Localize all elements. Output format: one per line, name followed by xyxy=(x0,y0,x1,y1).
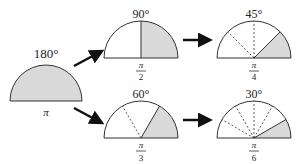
radian-num: π xyxy=(139,60,144,70)
radian-den: 2 xyxy=(139,72,144,82)
semicircle-45: 45° π 4 xyxy=(217,7,291,82)
radian-label-pi: π xyxy=(43,106,49,118)
radian-den: 4 xyxy=(252,72,257,82)
angle-division-diagram: 180° π 90° π 2 45° π 4 60° π 3 xyxy=(0,0,298,164)
arrow-to-90 xyxy=(74,52,100,66)
semicircle-180: 180° π xyxy=(10,46,82,118)
semicircle-60: 60° π 3 xyxy=(104,87,178,163)
angle-label-30: 30° xyxy=(246,87,263,101)
radian-num: π xyxy=(139,140,144,150)
radian-den: 3 xyxy=(139,153,144,163)
semicircle-30: 30° π 6 xyxy=(217,87,291,163)
angle-label-90: 90° xyxy=(133,7,150,21)
angle-label-60: 60° xyxy=(133,87,150,101)
angle-label-45: 45° xyxy=(246,7,263,21)
angle-label-180: 180° xyxy=(34,46,59,61)
radian-num: π xyxy=(252,140,257,150)
semicircle-90: 90° π 2 xyxy=(104,7,178,82)
radian-den: 6 xyxy=(252,153,257,163)
radian-num: π xyxy=(252,60,257,70)
arrow-to-60 xyxy=(74,108,100,122)
